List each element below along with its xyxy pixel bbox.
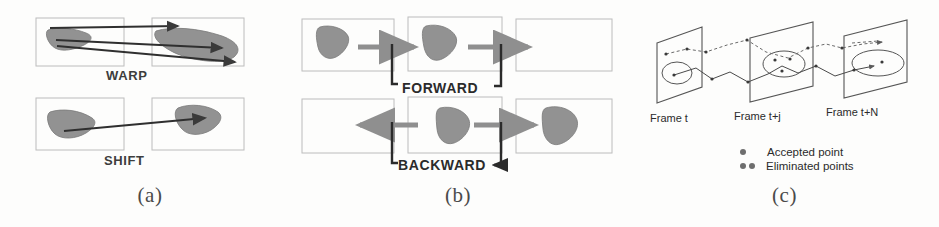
backward-label: BACKWARD xyxy=(398,157,486,173)
region-ellipse-t xyxy=(662,62,692,84)
legend-eliminated-label: Eliminated points xyxy=(766,160,854,172)
backward-blob-frame2 xyxy=(436,107,469,143)
frame-plane-tj xyxy=(750,22,813,102)
forward-elbow-right xyxy=(494,44,501,86)
legend-accepted-label: Accepted point xyxy=(767,146,843,158)
backward-elbow-right xyxy=(494,122,501,165)
region-ellipse-tn xyxy=(852,50,904,76)
track-dashed-eliminated xyxy=(666,40,882,58)
track-point-dots xyxy=(664,38,883,83)
frame-label-t: Frame t xyxy=(650,112,688,124)
eliminated-point-dot-icon-2 xyxy=(749,163,755,169)
accepted-point-dot-icon xyxy=(740,149,746,155)
eliminated-point-dot-icon-1 xyxy=(740,163,746,169)
caption-a: (a) xyxy=(0,183,300,208)
warp-label: WARP xyxy=(106,68,147,83)
track-dashed-tn-segment xyxy=(852,41,878,43)
frame-plane-t xyxy=(657,27,702,103)
figure-root: WARP SHIFT (a) xyxy=(0,0,939,227)
legend-accepted-point: Accepted point xyxy=(740,145,843,158)
forward-blob-frame1 xyxy=(316,26,348,58)
panel-b-forward-backward: FORWARD BACKWARD (b) xyxy=(288,0,628,227)
caption-b: (b) xyxy=(288,183,628,208)
frame-label-tn: Frame t+N xyxy=(826,106,878,118)
forward-label: FORWARD xyxy=(402,80,478,96)
legend-eliminated-points: Eliminated points xyxy=(740,159,854,172)
frame-label-tj: Frame t+j xyxy=(734,110,781,122)
shift-source-blob xyxy=(48,110,95,138)
forward-blob-frame2 xyxy=(422,25,456,60)
panel-c-frame-tracks: Frame t Frame t+j Frame t+N Accepted poi… xyxy=(630,0,939,227)
forward-frame-3 xyxy=(516,19,612,71)
caption-c: (c) xyxy=(630,183,939,208)
forward-elbow-left xyxy=(392,44,398,84)
backward-blob-frame3 xyxy=(542,107,577,145)
warp-arrow-1 xyxy=(50,26,178,28)
shift-label: SHIFT xyxy=(104,153,145,168)
panel-a-warp-shift: WARP SHIFT (a) xyxy=(0,0,300,227)
